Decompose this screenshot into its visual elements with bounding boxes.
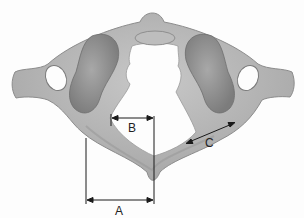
label-c: C xyxy=(205,137,214,149)
a-arrow-right-icon xyxy=(147,198,153,203)
atlas-diagram: A B C xyxy=(0,0,304,218)
atlas-illustration xyxy=(0,0,304,218)
label-a: A xyxy=(115,205,123,217)
a-arrow-left-icon xyxy=(87,198,93,203)
label-b: B xyxy=(128,122,136,134)
dens-facet xyxy=(135,31,175,45)
